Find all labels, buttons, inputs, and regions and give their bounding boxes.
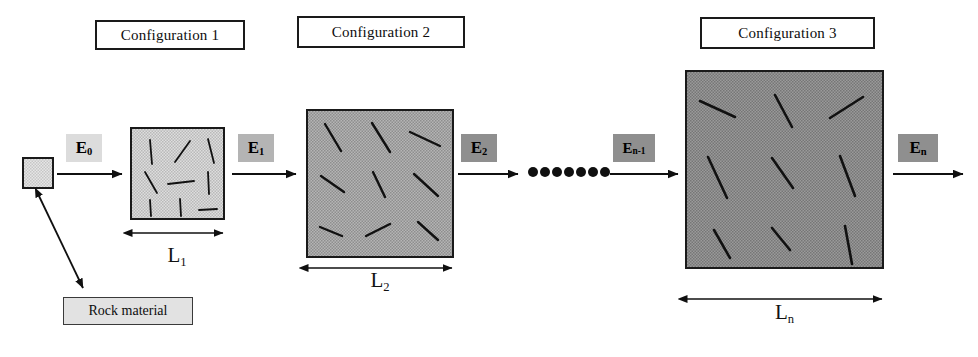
continuation-dot bbox=[552, 167, 562, 177]
configuration-3-block bbox=[686, 71, 883, 268]
configuration-2-label: Configuration 2 bbox=[332, 25, 430, 40]
configuration-blocks-layer bbox=[131, 71, 883, 268]
rock-material-callout-arrow bbox=[39, 196, 83, 288]
energy-label-subscript: n bbox=[921, 146, 927, 157]
continuation-dot bbox=[540, 167, 550, 177]
energy-label-base: E bbox=[248, 138, 259, 158]
energy-label-E1: E1 bbox=[238, 134, 274, 162]
configuration-3-label-box: Configuration 3 bbox=[700, 17, 875, 49]
fracture-segment-7 bbox=[150, 200, 151, 216]
energy-label-E0: E0 bbox=[66, 134, 102, 162]
length-label-base: L bbox=[167, 243, 180, 267]
length-label-Ln: Ln bbox=[682, 300, 887, 330]
energy-label-base: E bbox=[909, 138, 920, 158]
energy-label-base: E bbox=[471, 138, 482, 158]
energy-label-subscript: n-1 bbox=[633, 146, 646, 156]
length-label-subscript: 2 bbox=[383, 280, 389, 294]
continuation-dots bbox=[528, 167, 610, 177]
rock-material-label: Rock material bbox=[89, 303, 168, 319]
configuration-3-label: Configuration 3 bbox=[738, 26, 836, 41]
upscaling-configurations-figure: Configuration 1 Configuration 2 Configur… bbox=[0, 0, 978, 357]
continuation-dot bbox=[576, 167, 586, 177]
fracture-segment-8 bbox=[180, 199, 181, 216]
configuration-1-label: Configuration 1 bbox=[121, 28, 219, 43]
energy-label-subscript: 2 bbox=[482, 146, 487, 157]
fracture-segment-9 bbox=[199, 209, 217, 210]
length-label-base: L bbox=[370, 268, 383, 292]
length-label-subscript: 1 bbox=[180, 255, 186, 269]
configuration-1-block bbox=[131, 128, 224, 219]
continuation-dot bbox=[528, 167, 538, 177]
continuation-dot bbox=[600, 167, 610, 177]
energy-label-base: E bbox=[623, 140, 633, 157]
energy-label-subscript: 1 bbox=[259, 146, 264, 157]
energy-label-base: E bbox=[76, 138, 87, 158]
energy-label-En: En bbox=[898, 134, 938, 162]
energy-label-En-1: En-1 bbox=[613, 134, 655, 162]
continuation-dot bbox=[564, 167, 574, 177]
rock-sample-square bbox=[23, 158, 53, 188]
energy-label-subscript: 0 bbox=[87, 146, 92, 157]
length-label-L1: L1 bbox=[128, 243, 226, 269]
fracture-segment-6 bbox=[208, 172, 209, 194]
energy-label-E2: E2 bbox=[461, 134, 497, 162]
length-label-base: L bbox=[775, 300, 788, 324]
rock-material-callout-arrow bbox=[39, 196, 83, 288]
configuration-1-label-box: Configuration 1 bbox=[95, 20, 245, 50]
length-label-L2: L2 bbox=[305, 268, 455, 296]
rock-material-label-box: Rock material bbox=[63, 297, 193, 325]
configuration-2-block bbox=[307, 110, 453, 257]
length-label-subscript: n bbox=[788, 312, 794, 326]
continuation-dot bbox=[588, 167, 598, 177]
configuration-2-label-box: Configuration 2 bbox=[297, 16, 465, 48]
